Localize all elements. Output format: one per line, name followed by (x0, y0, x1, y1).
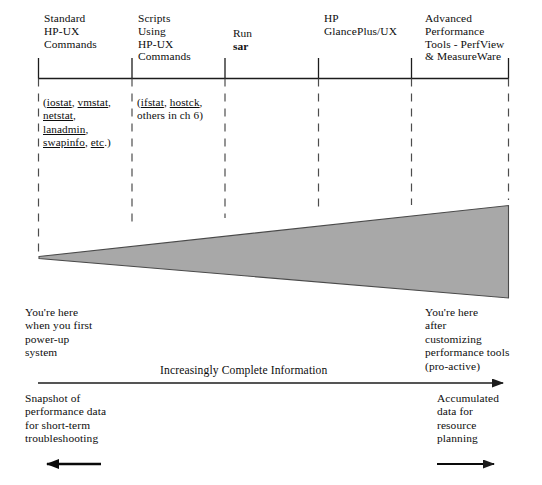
sar-label: sar (233, 40, 293, 53)
axis-label-increasing-information: Increasingly Complete Information (160, 365, 390, 378)
annotation-right-bottom: Accumulated data for resource planning (437, 392, 542, 446)
growth-wedge (39, 206, 509, 299)
stage-commands-standard: (iostat, vmstat,netstat,lanadmin,swapinf… (43, 83, 135, 149)
annotation-left-bottom: Snapshot of performance data for short-t… (25, 392, 165, 446)
stage-heading-scripts: Scripts Using HP-UX Commands (138, 12, 228, 63)
annotation-left-top: You're here when you first power-up syst… (25, 306, 155, 360)
stage-heading-standard-commands: Standard HP-UX Commands (44, 12, 136, 50)
run-label: Run (233, 27, 293, 40)
stage-commands-scripts-text: (ifstat, hostck,others in ch 6) (137, 96, 203, 121)
diagram-canvas: Standard HP-UX Commands Scripts Using HP… (0, 0, 542, 485)
annotation-right-top: You're here after customizing performanc… (425, 306, 542, 373)
stage-heading-advanced-tools: Advanced Performance Tools - PerfView & … (425, 12, 541, 63)
stage-heading-run-sar: Run sar (233, 27, 293, 53)
stage-commands-scripts: (ifstat, hostck,others in ch 6) (137, 83, 233, 123)
stage-heading-glanceplus: HP GlancePlus/UX (324, 12, 424, 38)
stage-commands-standard-text: (iostat, vmstat,netstat,lanadmin,swapinf… (43, 96, 111, 148)
